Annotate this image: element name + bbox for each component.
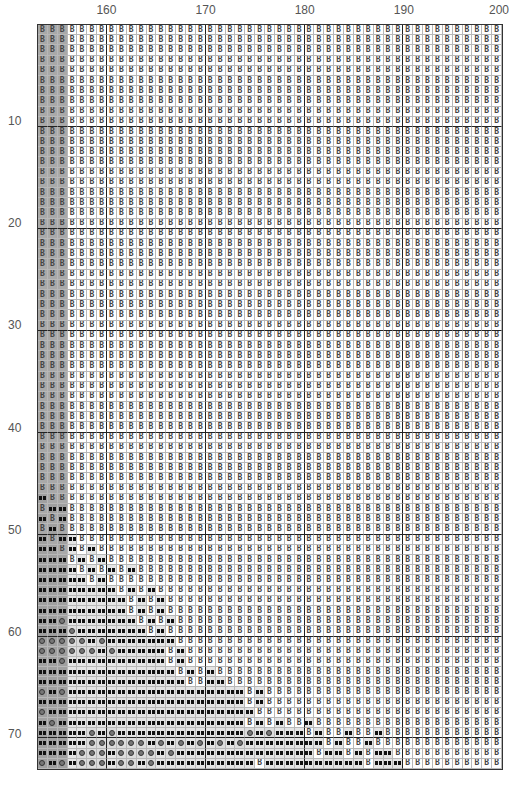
b-symbol-icon: B (316, 719, 321, 727)
grid-cell: B (305, 66, 315, 76)
grid-cell: B (235, 239, 245, 249)
grid-cell: B (314, 239, 324, 249)
grid-cell: B (314, 708, 324, 718)
b-symbol-icon: B (405, 739, 410, 747)
b-symbol-icon: B (445, 474, 450, 482)
grid-cell: B (314, 45, 324, 55)
grid-cell: B (97, 351, 107, 361)
grid-cell: B (384, 504, 394, 514)
grid-cell: B (423, 667, 433, 677)
b-symbol-icon: B (119, 576, 124, 584)
b-symbol-icon: B (425, 668, 430, 676)
b-symbol-icon: B (99, 168, 104, 176)
b-symbol-icon: B (218, 97, 223, 105)
b-symbol-icon: B (494, 556, 499, 564)
b-symbol-icon: B (316, 148, 321, 156)
b-symbol-icon: B (237, 556, 242, 564)
b-symbol-icon: B (346, 148, 351, 156)
grid-cell: B (472, 647, 482, 657)
bowtie-icon (59, 598, 66, 602)
b-symbol-icon: B (484, 209, 489, 217)
b-symbol-icon: B (455, 474, 460, 482)
b-symbol-icon: B (208, 505, 213, 513)
b-symbol-icon: B (386, 229, 391, 237)
bowtie-icon (236, 721, 243, 725)
b-symbol-icon: B (395, 596, 400, 604)
b-symbol-icon: B (484, 464, 489, 472)
b-symbol-icon: B (297, 372, 302, 380)
grid-cell: B (364, 188, 374, 198)
grid-cell: B (472, 463, 482, 473)
grid-cell: B (127, 198, 137, 208)
grid-cell (206, 718, 216, 728)
bowtie-icon (98, 710, 105, 714)
b-symbol-icon: B (109, 87, 114, 95)
grid-cell: B (107, 280, 117, 290)
b-symbol-icon: B (316, 749, 321, 757)
b-symbol-icon: B (376, 515, 381, 523)
grid-cell: B (235, 270, 245, 280)
b-symbol-icon: B (425, 199, 430, 207)
b-symbol-icon: B (168, 229, 173, 237)
b-symbol-icon: B (336, 494, 341, 502)
b-symbol-icon: B (346, 382, 351, 390)
b-symbol-icon: B (247, 464, 252, 472)
grid-cell: B (255, 484, 265, 494)
b-symbol-icon: B (395, 372, 400, 380)
grid-cell: B (334, 422, 344, 432)
grid-cell: B (87, 575, 97, 585)
grid-cell: B (492, 535, 502, 545)
b-symbol-icon: B (198, 26, 203, 34)
b-symbol-icon: B (208, 209, 213, 217)
b-symbol-icon: B (247, 576, 252, 584)
grid-cell: B (364, 749, 374, 759)
bowtie-icon (98, 721, 105, 725)
b-symbol-icon: B (228, 87, 233, 95)
b-symbol-icon: B (129, 413, 134, 421)
grid-cell: B (314, 270, 324, 280)
b-symbol-icon: B (356, 331, 361, 339)
grid-cell: B (58, 484, 68, 494)
b-symbol-icon: B (149, 494, 154, 502)
grid-cell: B (275, 372, 285, 382)
grid-cell (58, 728, 68, 738)
b-symbol-icon: B (247, 311, 252, 319)
b-symbol-icon: B (158, 443, 163, 451)
b-symbol-icon: B (336, 342, 341, 350)
grid-cell: B (265, 626, 275, 636)
b-symbol-icon: B (198, 586, 203, 594)
b-symbol-icon: B (218, 189, 223, 197)
b-symbol-icon: B (208, 342, 213, 350)
grid-cell: B (482, 514, 492, 524)
b-symbol-icon: B (405, 586, 410, 594)
b-symbol-icon: B (218, 352, 223, 360)
b-symbol-icon: B (494, 392, 499, 400)
grid-cell: B (117, 249, 127, 259)
grid-cell: B (68, 433, 78, 443)
grid-cell (176, 657, 186, 667)
b-symbol-icon: B (386, 209, 391, 217)
grid-cell: B (314, 412, 324, 422)
b-symbol-icon: B (188, 454, 193, 462)
grid-cell: B (87, 392, 97, 402)
b-symbol-icon: B (297, 494, 302, 502)
b-symbol-icon: B (425, 189, 430, 197)
b-symbol-icon: B (336, 87, 341, 95)
b-symbol-icon: B (267, 260, 272, 268)
b-symbol-icon: B (455, 270, 460, 278)
bowtie-icon (157, 751, 164, 755)
grid-cell: B (156, 361, 166, 371)
b-symbol-icon: B (465, 229, 470, 237)
b-symbol-icon: B (307, 596, 312, 604)
b-symbol-icon: B (405, 454, 410, 462)
b-symbol-icon: B (405, 97, 410, 105)
b-symbol-icon: B (247, 372, 252, 380)
grid-cell (48, 677, 58, 687)
grid-cell: B (206, 117, 216, 127)
grid-cell: B (393, 45, 403, 55)
grid-cell: B (216, 137, 226, 147)
b-symbol-icon: B (474, 729, 479, 737)
grid-cell: B (127, 178, 137, 188)
grid-cell: B (68, 127, 78, 137)
b-symbol-icon: B (149, 107, 154, 115)
